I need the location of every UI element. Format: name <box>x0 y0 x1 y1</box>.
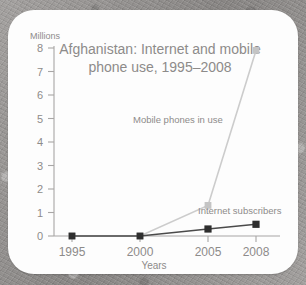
y-tick-label-3: 3 <box>37 160 43 172</box>
x-tick-label-2000: 2000 <box>127 245 154 259</box>
x-axis-tick-labels: 1995 2000 2005 2008 <box>59 245 270 259</box>
y-tick-label-8: 8 <box>37 42 43 54</box>
x-tick-label-2008: 2008 <box>243 245 270 259</box>
x-axis-ticks <box>72 236 256 242</box>
x-tick-label-2005: 2005 <box>195 245 222 259</box>
line-chart: Millions Afghanistan: Internet and mobil… <box>8 10 298 274</box>
y-tick-label-0: 0 <box>37 230 43 242</box>
data-point-mobile-2008 <box>253 47 260 54</box>
chart-title-line-2: phone use, 1995–2008 <box>88 59 231 75</box>
y-tick-label-6: 6 <box>37 89 43 101</box>
y-tick-label-2: 2 <box>37 183 43 195</box>
y-tick-label-1: 1 <box>37 207 43 219</box>
y-axis-ticks <box>48 48 54 236</box>
x-axis-title: Years <box>141 260 166 271</box>
chart-card: Millions Afghanistan: Internet and mobil… <box>8 10 298 274</box>
x-tick-label-1995: 1995 <box>59 245 86 259</box>
y-tick-label-5: 5 <box>37 113 43 125</box>
y-tick-label-4: 4 <box>37 136 43 148</box>
data-point-internet-2000 <box>137 233 144 240</box>
y-axis-tick-labels: 8 7 6 5 4 3 2 1 0 <box>37 42 43 242</box>
y-axis-unit-label: Millions <box>30 31 61 41</box>
data-point-internet-2005 <box>204 225 211 232</box>
series-annotation-mobile-phones: Mobile phones in use <box>133 114 223 125</box>
series-annotation-internet-subscribers: Internet subscribers <box>198 205 282 216</box>
data-point-internet-2008 <box>252 221 259 228</box>
y-tick-label-7: 7 <box>37 66 43 78</box>
data-point-internet-1995 <box>69 233 76 240</box>
chart-title-line-1: Afghanistan: Internet and mobile <box>59 41 261 57</box>
